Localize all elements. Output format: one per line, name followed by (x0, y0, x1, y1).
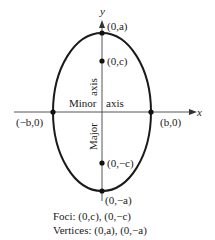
top-vertex-label: (0,a) (107, 20, 128, 33)
ellipse-diagram: y x (0,a) (0,c) (0,−c) (0,−a) (−b,0) (b,… (0, 0, 215, 240)
foci-caption: Foci: (0,c), (0,−c) (53, 210, 131, 223)
focus-top-label: (0,c) (107, 55, 128, 68)
right-covertex-point (148, 109, 153, 114)
focus-top-point (99, 58, 104, 63)
minor-axis-axis-label: axis (106, 97, 124, 109)
left-covertex-point (50, 109, 55, 114)
minor-axis-word-label: Minor (69, 97, 97, 109)
y-axis-label: y (99, 5, 105, 17)
y-axis-arrow-icon (99, 20, 105, 28)
major-axis-axis-label: axis (87, 78, 99, 96)
right-covertex-label: (b,0) (160, 116, 181, 129)
vertices-caption: Vertices: (0,a), (0,−a) (53, 224, 147, 237)
left-covertex-label: (−b,0) (16, 116, 44, 129)
major-axis-word-label: Major (87, 123, 99, 150)
bottom-vertex-point (99, 188, 104, 193)
focus-bottom-label: (0,−c) (107, 157, 134, 170)
bottom-vertex-label: (0,−a) (105, 194, 132, 207)
focus-bottom-point (99, 160, 104, 165)
top-vertex-point (99, 30, 104, 35)
x-axis-arrow-icon (189, 109, 197, 115)
x-axis-label: x (196, 106, 202, 118)
